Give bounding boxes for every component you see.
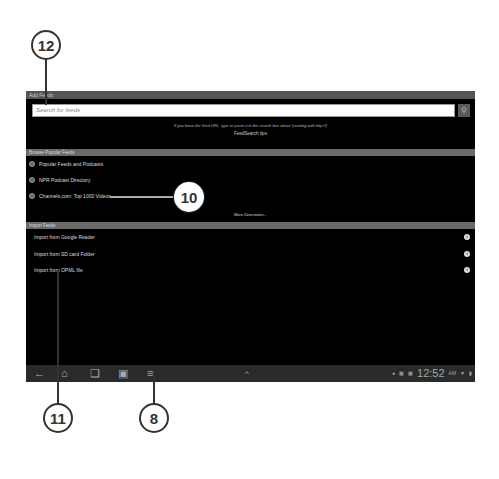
- directory-label: Channels.com: Top 1000 Videos: [39, 193, 111, 199]
- battery-icon: ▮: [469, 370, 472, 376]
- system-navbar: ← ⌂ ❏ ▣ ≡ ^ ● ▩ ▩ 12:52 AM ▼ ▮: [26, 365, 475, 382]
- directory-icon: [29, 161, 35, 167]
- status-area[interactable]: ● ▩ ▩ 12:52 AM ▼ ▮: [392, 367, 472, 379]
- import-item[interactable]: Import from Google Reader i: [34, 231, 475, 243]
- callout-11: 11: [43, 403, 73, 433]
- directory-label: Popular Feeds and Podcasts: [39, 161, 103, 167]
- home-icon[interactable]: ⌂: [61, 367, 68, 380]
- callout-10: 10: [174, 182, 204, 212]
- tablet-screen: Add Feeds Search for feeds ⚲ If you know…: [26, 91, 475, 382]
- import-section-header: Import Feeds: [26, 222, 475, 229]
- info-icon[interactable]: i: [464, 251, 470, 257]
- hint-text: If you know the feed URL, type or paste …: [26, 123, 475, 128]
- directory-item[interactable]: NPR Podcast Directory: [29, 175, 90, 185]
- directory-label: NPR Podcast Directory: [39, 177, 90, 183]
- directory-item[interactable]: Channels.com: Top 1000 Videos: [29, 191, 111, 201]
- wifi-icon: ▼: [460, 370, 465, 376]
- search-button[interactable]: ⚲: [458, 104, 470, 117]
- back-icon[interactable]: ←: [34, 367, 45, 380]
- import-item[interactable]: Import from OPML file i: [34, 264, 475, 276]
- feedsearch-tips-link[interactable]: FeedSearch tips: [26, 131, 475, 136]
- info-icon[interactable]: i: [464, 234, 470, 240]
- import-label: Import from SD card Folder: [34, 251, 95, 257]
- callout-line: [45, 58, 47, 105]
- notification-icon: ●: [392, 370, 395, 376]
- screenshot-icon[interactable]: ▣: [118, 367, 128, 380]
- browse-section-header: Browse Popular Feeds: [26, 149, 475, 156]
- search-row: Search for feeds ⚲: [32, 104, 470, 118]
- search-icon: ⚲: [461, 106, 467, 115]
- clock-ampm: AM: [449, 370, 457, 376]
- callout-line: [57, 270, 59, 405]
- import-label: Import from Google Reader: [34, 234, 95, 240]
- search-input[interactable]: Search for feeds: [32, 104, 455, 117]
- directory-icon: [29, 177, 35, 183]
- info-icon[interactable]: i: [464, 267, 470, 273]
- directory-icon: [29, 193, 35, 199]
- more-directories-link[interactable]: More Directories...: [234, 212, 267, 217]
- directory-item[interactable]: Popular Feeds and Podcasts: [29, 159, 103, 169]
- up-arrow-icon[interactable]: ^: [245, 367, 249, 380]
- image-notification-icon: ▩: [399, 370, 404, 376]
- callout-8: 8: [139, 403, 169, 433]
- app-title: Add Feeds: [26, 91, 475, 99]
- callout-12: 12: [31, 30, 61, 60]
- import-item[interactable]: Import from SD card Folder i: [34, 248, 475, 260]
- callout-line: [153, 372, 155, 404]
- callout-line: [110, 196, 175, 198]
- download-notification-icon: ▩: [408, 370, 413, 376]
- recent-apps-icon[interactable]: ❏: [90, 367, 100, 380]
- clock: 12:52: [417, 367, 445, 379]
